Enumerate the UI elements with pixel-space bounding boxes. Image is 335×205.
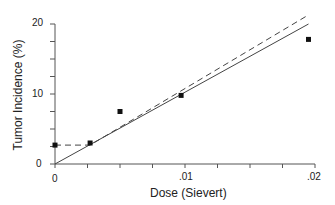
fit-line: [55, 15, 309, 145]
x-tick-02: .02: [307, 171, 321, 182]
x-tick-0: 0: [52, 173, 58, 184]
chart-plot: [0, 0, 335, 205]
y-tick-10: 10: [32, 88, 43, 99]
x-axis-title: Dose (Sievert): [150, 186, 227, 200]
data-point: [179, 93, 184, 98]
data-point: [306, 37, 311, 42]
data-point: [88, 141, 93, 146]
y-axis-title: Tumor Incidence (%): [11, 35, 25, 155]
data-point: [53, 143, 58, 148]
data-point: [118, 109, 123, 114]
y-tick-20: 20: [32, 17, 43, 28]
x-tick-01: .01: [179, 171, 193, 182]
y-tick-0: 0: [36, 158, 42, 169]
